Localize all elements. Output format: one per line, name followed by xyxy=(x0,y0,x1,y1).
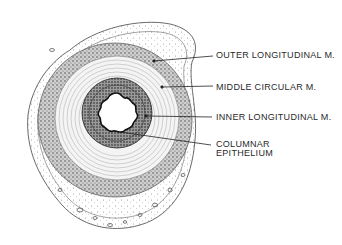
cross-section-figure xyxy=(0,0,342,245)
label-middle-circular: MIDDLE CIRCULAR M. xyxy=(216,82,316,92)
label-inner-longitudinal: INNER LONGITUDINAL M. xyxy=(216,112,331,122)
label-outer-longitudinal: OUTER LONGITUDINAL M. xyxy=(216,50,335,60)
label-epithelium: EPITHELIUM xyxy=(216,148,273,158)
